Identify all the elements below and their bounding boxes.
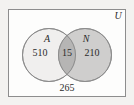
universal-set-label: U <box>112 11 124 21</box>
outside-sets-count: 265 <box>54 83 80 93</box>
venn-diagram-figure: U A N 510 15 210 265 <box>0 0 134 105</box>
set-a-only-count: 510 <box>27 48 53 58</box>
set-intersection-count: 15 <box>58 48 76 58</box>
set-n-only-count: 210 <box>79 48 105 58</box>
set-a-label: A <box>40 34 54 44</box>
set-n-label: N <box>79 34 93 44</box>
